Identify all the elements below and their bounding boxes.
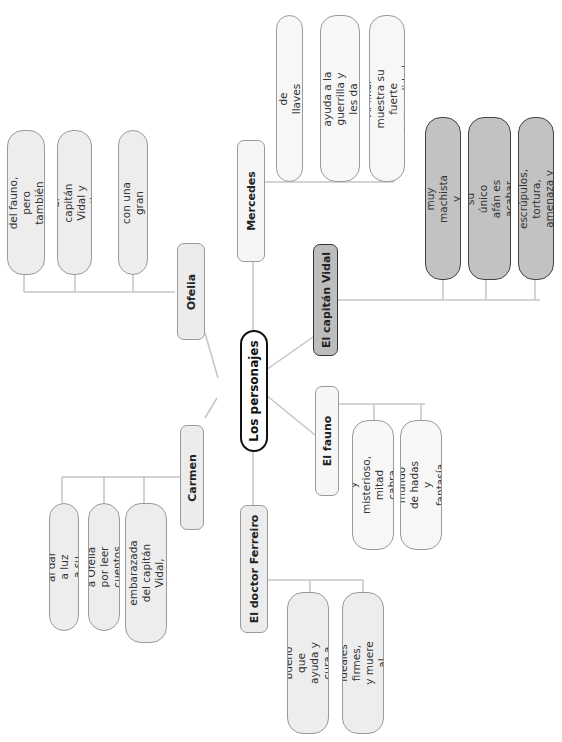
branch-label: Carmen xyxy=(186,454,199,502)
branch-label: Ofelia xyxy=(185,273,198,310)
branch-capitan-vidal: El capitán Vidal xyxy=(313,244,338,356)
leaf-text: La madre de Ofelia, embarazada del capit… xyxy=(125,540,167,606)
leaf-text: No soporta al capitán Vidal y cuestiona … xyxy=(57,177,92,228)
leaf-text: Un hombre servicial y bueno que ayuda y … xyxy=(287,640,329,686)
leaf-text: Un hombre muy machista y poco afectuoso xyxy=(425,173,461,224)
leaf-ofelia-1: Participa en las pruebas del fauno, pero… xyxy=(7,130,45,275)
center-label: Los personajes xyxy=(248,340,261,441)
leaf-text: Le encanta la precisión; su único afán e… xyxy=(468,172,511,224)
branch-el-fauno: El fauno xyxy=(315,386,339,496)
center-node: Los personajes xyxy=(240,330,268,452)
leaf-text: Una niña con una gran imaginación xyxy=(118,170,148,234)
branch-label: El fauno xyxy=(321,416,334,467)
leaf-fauno-2: Lleva a Ofelia a un mundo de hadas y fan… xyxy=(400,420,442,550)
leaf-text: Un ser mitológico y misterioso, mitad ca… xyxy=(352,456,394,514)
leaf-carmen-1: Muere al dar a luz a su hijo xyxy=(49,503,79,631)
leaf-ferreiro-1: Un hombre servicial y bueno que ayuda y … xyxy=(287,592,329,734)
leaf-vidal-3: Sin escrúpulos, tortura, amenaza y mata xyxy=(518,117,554,280)
mind-map: Los personajes Ofelia Participa en las p… xyxy=(0,0,562,742)
branch-carmen: Carmen xyxy=(180,425,204,530)
leaf-mercedes-2: Muy reservada, ayuda a la guerrilla y le… xyxy=(320,15,360,182)
leaf-text: El ama de llaves del molino xyxy=(276,81,303,117)
branch-label: El doctor Ferreiro xyxy=(248,515,261,624)
leaf-mercedes-1: El ama de llaves del molino xyxy=(276,15,303,182)
leaf-vidal-2: Le encanta la precisión; su único afán e… xyxy=(468,117,511,280)
branch-ofelia: Ofelia xyxy=(177,243,205,340)
leaf-text: Muere al dar a luz a su hijo xyxy=(49,551,79,584)
leaf-fauno-1: Un ser mitológico y misterioso, mitad ca… xyxy=(352,420,394,550)
leaf-mercedes-3: Al final muestra su fuerte personalidad xyxy=(369,15,405,182)
leaf-text: Muy reservada, ayuda a la guerrilla y le… xyxy=(320,67,360,129)
leaf-text: Lleva a Ofelia a un mundo de hadas y fan… xyxy=(400,460,442,510)
branch-label: El capitán Vidal xyxy=(319,252,332,348)
leaf-carmen-3: La madre de Ofelia, embarazada del capit… xyxy=(125,503,167,643)
leaf-ferreiro-2: Tiene unos ideales firmes, y muere al di… xyxy=(342,592,384,734)
branch-doctor-ferreiro: El doctor Ferreiro xyxy=(240,505,268,633)
leaf-text: Sin escrúpulos, tortura, amenaza y mata xyxy=(518,168,554,228)
branch-mercedes: Mercedes xyxy=(237,140,265,262)
leaf-ofelia-2: No soporta al capitán Vidal y cuestiona … xyxy=(57,130,92,275)
leaf-text: Tiene unos ideales firmes, y muere al di… xyxy=(342,637,384,690)
leaf-vidal-1: Un hombre muy machista y poco afectuoso xyxy=(425,117,461,280)
leaf-carmen-2: Realista, regaña a Ofelia por leer cuent… xyxy=(88,503,120,631)
leaf-text: Participa en las pruebas del fauno, pero… xyxy=(7,171,45,235)
leaf-text: Realista, regaña a Ofelia por leer cuent… xyxy=(88,545,120,590)
leaf-text: Al final muestra su fuerte personalidad xyxy=(369,64,405,132)
leaf-ofelia-3: Una niña con una gran imaginación xyxy=(118,130,148,275)
branch-label: Mercedes xyxy=(245,171,258,231)
